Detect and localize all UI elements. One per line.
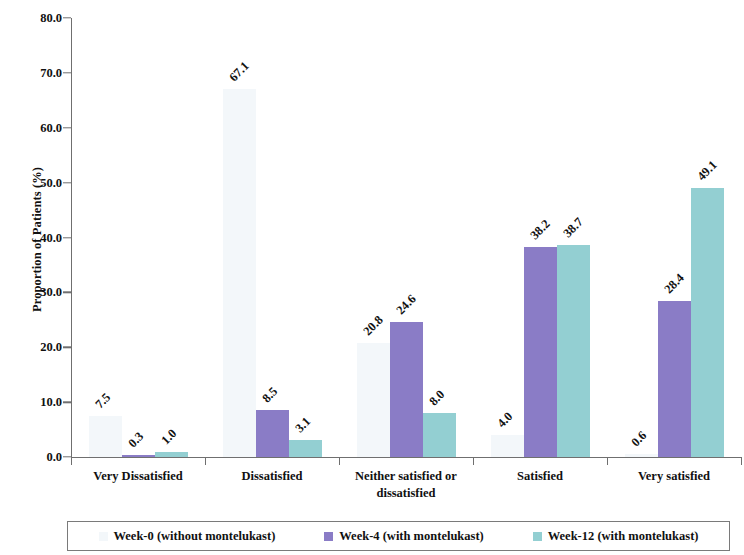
bar-group: 67.18.53.1 [205,18,339,457]
y-axis-tick-mark [63,347,71,348]
bar-chart: Proportion of Patients (%) 0.010.020.030… [0,0,744,555]
bar: 38.2 [524,247,557,457]
x-axis-tick-mark [473,457,474,465]
x-axis-tick-mark [205,457,206,465]
x-axis-category-label: Satisfied [473,468,607,485]
bar-value-label: 1.0 [158,426,180,448]
x-axis-category-label-line: Very satisfied [607,468,741,485]
bar-value-label: 20.8 [360,313,386,339]
bar: 8.0 [423,413,456,457]
bar: 8.5 [256,410,289,457]
bar-value-label: 38.2 [527,217,553,243]
bar-value-label: 7.5 [92,390,114,412]
bar-value-label: 49.1 [694,158,720,184]
bar-value-label: 3.1 [292,414,314,436]
bar: 0.3 [122,455,155,457]
bar-value-label: 0.3 [125,430,147,452]
x-axis-tick-mark [71,457,72,465]
legend: Week-0 (without montelukast)Week-4 (with… [67,521,730,551]
x-axis-category-label-line: Neither satisfied or [339,468,473,485]
y-axis-tick-label: 70.0 [40,65,62,80]
x-axis-tick-mark [741,457,742,465]
y-axis-tick-label: 60.0 [40,120,62,135]
bar: 67.1 [223,89,256,457]
bar: 7.5 [89,416,122,457]
legend-item[interactable]: Week-4 (with montelukast) [324,529,483,544]
y-axis-tick-mark [63,17,71,18]
bar-value-label: 28.4 [661,271,687,297]
x-axis-category-label: Neither satisfied ordissatisfied [339,468,473,502]
bar-value-label: 24.6 [393,292,419,318]
legend-item[interactable]: Week-0 (without montelukast) [99,529,276,544]
y-axis-tick-label: 30.0 [40,285,62,300]
x-axis-category-label: Dissatisfied [205,468,339,485]
legend-label: Week-12 (with montelukast) [548,529,699,544]
bar-group: 20.824.68.0 [339,18,473,457]
x-axis-category-label: Very satisfied [607,468,741,485]
plot-area: 7.50.31.067.18.53.120.824.68.04.038.238.… [71,18,741,457]
bar-group: 7.50.31.0 [71,18,205,457]
x-axis-tick-mark [607,457,608,465]
legend-label: Week-4 (with montelukast) [339,529,483,544]
y-axis-tick-mark [63,237,71,238]
legend-label: Week-0 (without montelukast) [114,529,276,544]
bar-value-label: 38.7 [560,215,586,241]
y-axis-tick-label: 40.0 [40,230,62,245]
y-axis-tick-mark [63,292,71,293]
legend-item[interactable]: Week-12 (with montelukast) [533,529,699,544]
x-axis-tick-mark [339,457,340,465]
bar-group: 0.628.449.1 [607,18,741,457]
bar: 24.6 [390,322,423,457]
bar: 28.4 [658,301,691,457]
bar: 20.8 [357,343,390,457]
bar-value-label: 67.1 [226,59,252,85]
bar-value-label: 8.5 [259,385,281,407]
bar: 1.0 [155,452,188,457]
x-axis-category-label-line: Dissatisfied [205,468,339,485]
y-axis-tick-mark [63,72,71,73]
y-axis-tick-mark [63,182,71,183]
bar-value-label: 8.0 [426,387,448,409]
x-axis-category-label-line: Satisfied [473,468,607,485]
y-axis-tick-label: 80.0 [40,11,62,26]
legend-swatch-icon [324,532,333,541]
x-axis-category-label: Very Dissatisfied [71,468,205,485]
legend-swatch-icon [533,532,542,541]
y-axis-tick-label: 50.0 [40,175,62,190]
y-axis-tick-label: 10.0 [40,395,62,410]
bar: 3.1 [289,440,322,457]
y-axis-tick-mark [63,401,71,402]
bar: 4.0 [491,435,524,457]
y-axis-tick-mark [63,456,71,457]
x-axis-line [71,457,742,458]
y-axis-tick-mark [63,127,71,128]
legend-swatch-icon [99,532,108,541]
x-axis-category-label-line: Very Dissatisfied [71,468,205,485]
bar: 0.6 [625,454,658,457]
y-axis-tick-label: 0.0 [46,450,62,465]
bar-group: 4.038.238.7 [473,18,607,457]
y-axis-tick-label: 20.0 [40,340,62,355]
bar: 49.1 [691,188,724,457]
x-axis-category-label-line: dissatisfied [339,485,473,502]
bar-value-label: 4.0 [494,409,516,431]
bar-value-label: 0.6 [628,428,650,450]
bar: 38.7 [557,245,590,457]
